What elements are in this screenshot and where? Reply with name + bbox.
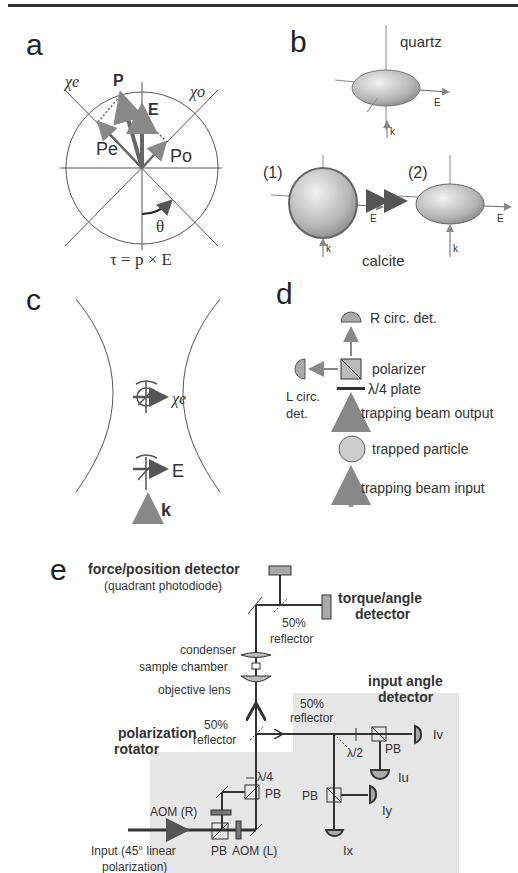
r-det-label: R circ. det. (370, 310, 437, 326)
chi-e-label: χe (63, 73, 79, 91)
pb-label: PB (385, 742, 401, 756)
quadrant-photodiode-icon (269, 566, 291, 575)
input-label-2: polarization) (102, 860, 167, 873)
particle-label: trapped particle (372, 441, 469, 457)
panel-d-letter: d (276, 277, 293, 310)
force-detector-label: force/position detector (88, 561, 240, 577)
panel-c: c χe E k (26, 283, 220, 520)
reflector-right-label-1: 50% (300, 697, 324, 711)
pb-label-3: PB (265, 787, 281, 801)
pb-label-4: PB (211, 844, 227, 858)
aom-l-label: AOM (L) (232, 844, 277, 858)
objective-lens-icon (241, 676, 271, 682)
ix-label: Ix (343, 843, 354, 858)
pol-rot-label-2: rotator (114, 741, 160, 757)
beam-input-label: trapping beam input (361, 480, 485, 496)
panel-a-letter: a (26, 28, 43, 61)
l-detector-icon (295, 359, 305, 379)
iy-detector-icon (370, 786, 376, 803)
quartz-ellipsoid (352, 70, 420, 106)
input-angle-label-2: detector (378, 689, 434, 705)
calcite-1-k-label: k (326, 243, 332, 254)
plate-label: λ/4 plate (368, 381, 421, 397)
input-label-1: Input (45° linear (91, 844, 176, 858)
torque-detector-icon (322, 595, 331, 619)
aom-r-icon (211, 810, 231, 815)
iu-label: Iu (398, 770, 409, 785)
torque-equation: τ = p × E (110, 250, 172, 269)
condenser-lens-icon (241, 653, 271, 658)
po-label: Po (170, 146, 192, 166)
quartz-label: quartz (400, 33, 442, 50)
panel-e-letter: e (50, 553, 67, 586)
calcite-2-k-label: k (453, 243, 459, 254)
l-det-label-2: det. (286, 406, 308, 421)
reflector-mid-label-2: reflector (193, 733, 236, 747)
chi-o-label: χo (188, 83, 205, 101)
pol-rot-label-1: polarization (118, 725, 197, 741)
panel-a: a χe P χo E Pe Po θ τ = p × E (26, 28, 222, 269)
polarizer-label: polarizer (372, 361, 426, 377)
iv-detector-icon (415, 726, 421, 743)
beam-output-label: trapping beam output (361, 405, 493, 421)
torque-label-1: torque/angle (338, 590, 422, 606)
reflector-top-label-2: reflector (270, 632, 313, 646)
quartz-e-label: E (434, 97, 441, 108)
reflector-top-label-1: 50% (282, 616, 306, 630)
reflector-right-label-2: reflector (290, 711, 333, 725)
theta-arc-icon (142, 202, 170, 214)
objective-label: objective lens (158, 683, 231, 697)
panel-b-letter: b (290, 25, 307, 58)
sample-chamber-label: sample chamber (139, 660, 228, 674)
panel-e: e force/position detector (quadrant phot… (50, 553, 459, 873)
pe-label: Pe (96, 139, 118, 159)
beam-waist-right (183, 299, 220, 492)
trapped-particle-icon (339, 436, 365, 462)
theta-label: θ (156, 217, 164, 236)
aom-l-icon (236, 821, 241, 839)
iv-label: Iv (433, 727, 444, 742)
c-k-label: k (161, 500, 172, 520)
quartz-k-label: k (390, 126, 396, 137)
calcite-2-ellipsoid (416, 184, 484, 224)
force-detector-sublabel: (quadrant photodiode) (104, 579, 222, 593)
torque-label-2: detector (355, 606, 411, 622)
top-rule (8, 4, 518, 7)
beam-waist-left (76, 299, 113, 492)
condenser-label: condenser (180, 643, 236, 657)
p-label: P (113, 72, 124, 89)
panel-d: d R circ. det. polarizer λ/4 plate L cir… (276, 277, 493, 507)
chi-label: χe (170, 390, 186, 408)
calcite-1-sphere (289, 168, 357, 238)
c-e-label: E (172, 461, 184, 481)
po-arrow-icon (142, 144, 164, 168)
r-detector-icon (341, 312, 361, 322)
calcite-1-e-label: E (370, 213, 377, 224)
calcite-2-label: (2) (408, 164, 428, 181)
lambda2-label: λ/2 (347, 746, 363, 760)
panel-c-letter: c (26, 283, 41, 316)
aom-r-label: AOM (R) (150, 805, 197, 819)
calcite-label: calcite (362, 252, 405, 269)
iu-detector-icon (371, 770, 389, 779)
ix-detector-icon (326, 830, 343, 836)
panel-b: b quartz E k (1) E k (2) E k calcite (263, 25, 510, 269)
input-angle-label-1: input angle (368, 673, 443, 689)
pb-label-2: PB (302, 789, 318, 803)
calcite-1-label: (1) (263, 164, 283, 181)
lambda4-label: λ/4 (257, 770, 273, 784)
calcite-2-e-label: E (497, 213, 504, 224)
quarter-wave-plate (337, 387, 365, 390)
figure-canvas: a χe P χo E Pe Po θ τ = p × E b quartz E (0, 0, 518, 873)
sample-chamber-icon (252, 663, 260, 669)
reflector-mid-label-1: 50% (204, 718, 228, 732)
l-det-label-1: L circ. (286, 389, 320, 404)
e-label: E (148, 101, 159, 118)
iy-label: Iy (382, 803, 393, 818)
